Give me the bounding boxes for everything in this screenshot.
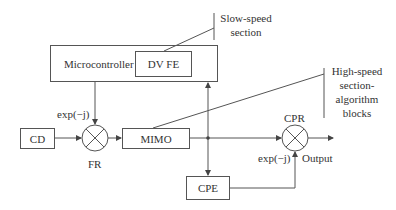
- cpr-label: CPR: [284, 112, 305, 125]
- output-label: Output: [302, 152, 333, 165]
- mimo-label: MIMO: [140, 133, 171, 145]
- junction-dot: [206, 136, 210, 140]
- slow-speed-annotation: Slow-speed section: [216, 11, 276, 39]
- block-diagram: Microcontroller DV FE CD MIMO CPE exp(−j…: [0, 0, 396, 210]
- mimo-block: MIMO: [122, 128, 190, 149]
- cpr-input-label: exp(−j): [258, 152, 290, 165]
- fr-input-label: exp(−j): [57, 108, 89, 121]
- fr-label: FR: [88, 158, 101, 171]
- microcontroller-block: Microcontroller: [50, 45, 218, 82]
- cpe-block: CPE: [186, 176, 230, 200]
- dvfe-label: DV FE: [148, 58, 179, 70]
- cd-block: CD: [20, 128, 55, 149]
- cpe-label: CPE: [198, 182, 218, 194]
- microcontroller-label: Microcontroller: [64, 58, 134, 70]
- high-speed-annotation: High-speed section- algorithm blocks: [326, 64, 388, 120]
- dvfe-block: DV FE: [135, 51, 192, 77]
- cd-label: CD: [30, 133, 45, 145]
